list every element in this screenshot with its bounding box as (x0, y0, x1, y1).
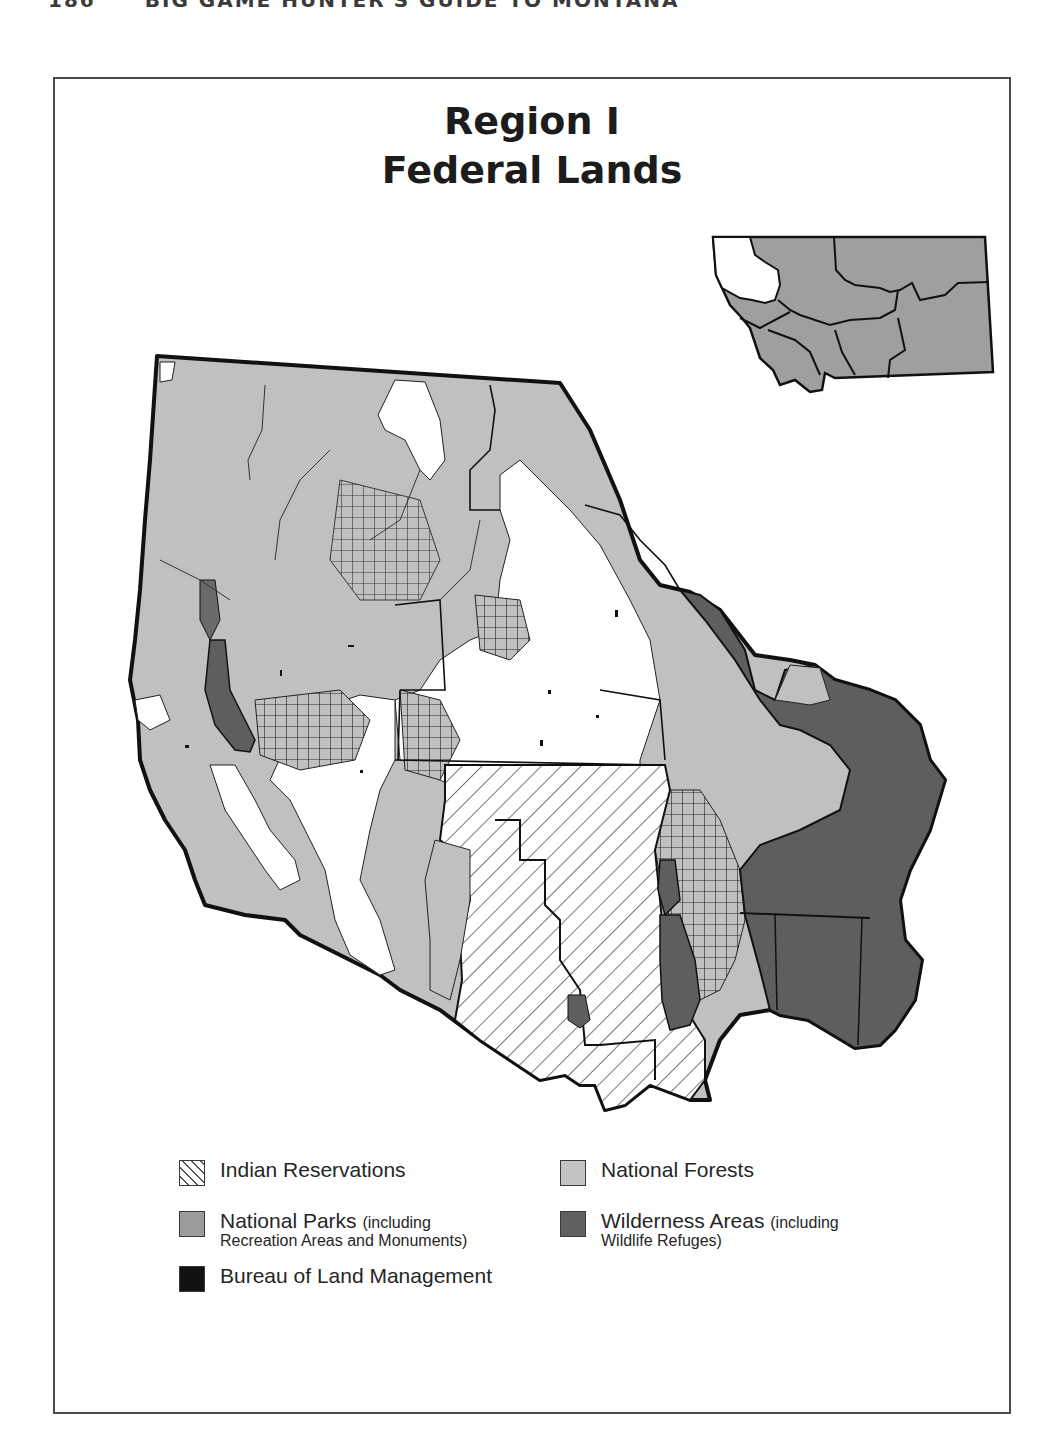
legend-label: National Parks (including Recreation Are… (220, 1210, 467, 1249)
legend-label-note: (including (770, 1214, 838, 1231)
legend-label: Indian Reservations (220, 1159, 406, 1180)
dark-gray-swatch-icon (560, 1211, 586, 1237)
legend-label-subnote: Wildlife Refuges) (601, 1233, 839, 1249)
legend-item-national-forests: National Forests (560, 1159, 754, 1186)
legend-label-main: Wilderness Areas (601, 1209, 764, 1232)
light-gray-swatch-icon (560, 1160, 586, 1186)
region-1-map (130, 356, 945, 1110)
black-swatch-icon (179, 1266, 205, 1292)
montana-inset (713, 237, 993, 392)
legend-label: National Forests (601, 1159, 754, 1180)
legend-label: Wilderness Areas (including Wildlife Ref… (601, 1210, 839, 1249)
legend-item-blm: Bureau of Land Management (179, 1265, 492, 1292)
legend-label-note: (including (362, 1214, 430, 1231)
legend-label-main: National Parks (220, 1209, 357, 1232)
region-map (0, 0, 1061, 1444)
legend-item-wilderness-areas: Wilderness Areas (including Wildlife Ref… (560, 1210, 839, 1249)
legend-item-indian-reservations: Indian Reservations (179, 1159, 406, 1186)
legend-label-subnote: Recreation Areas and Monuments) (220, 1233, 467, 1249)
mid-gray-swatch-icon (179, 1211, 205, 1237)
hatch-swatch-icon (179, 1160, 205, 1186)
legend-item-national-parks: National Parks (including Recreation Are… (179, 1210, 467, 1249)
legend-label: Bureau of Land Management (220, 1265, 492, 1286)
